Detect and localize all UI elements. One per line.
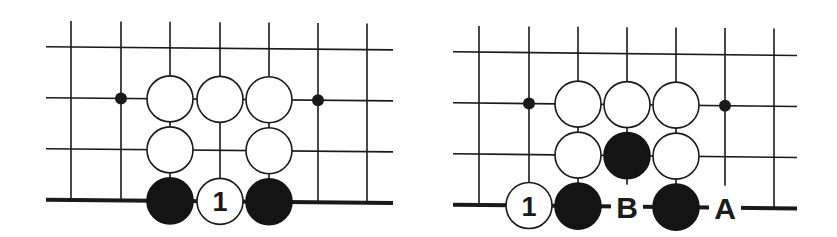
white-stone	[246, 77, 292, 123]
black-stone	[246, 179, 292, 225]
black-stone	[147, 178, 193, 224]
white-stone	[147, 76, 193, 122]
black-stone	[555, 183, 601, 229]
move-number-label: 1	[212, 187, 227, 217]
white-stone	[147, 127, 193, 173]
hoshi-point-icon	[719, 100, 731, 112]
go-diagrams-figure: 1 1BA	[0, 0, 837, 237]
white-stone	[246, 128, 292, 174]
hoshi-point-icon	[312, 94, 324, 106]
point-label-a: A	[714, 192, 736, 225]
move-number-label: 1	[521, 192, 536, 222]
black-stone	[604, 133, 650, 179]
hoshi-point-icon	[523, 98, 535, 110]
black-stone	[653, 184, 699, 230]
white-stone	[653, 133, 699, 179]
white-stone	[555, 132, 601, 178]
white-stone	[653, 82, 699, 128]
white-stone	[197, 76, 243, 122]
point-label-b: B	[616, 191, 638, 224]
white-stone	[604, 82, 650, 128]
hoshi-point-icon	[115, 92, 127, 104]
white-stone	[555, 81, 601, 127]
